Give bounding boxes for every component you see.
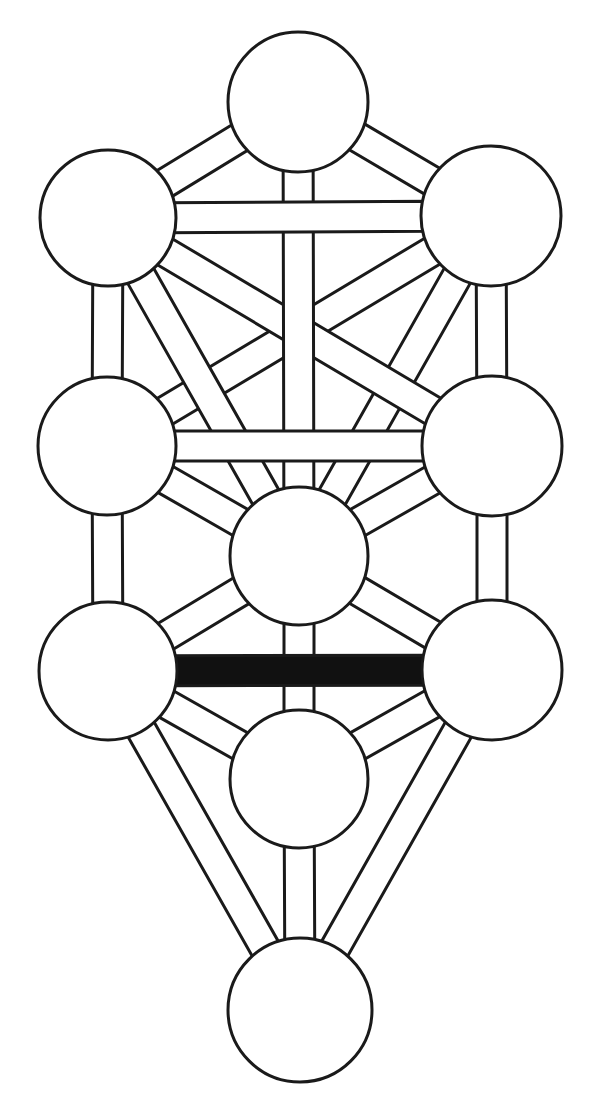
tree-path[interactable] bbox=[166, 431, 432, 461]
highlighted-path[interactable] bbox=[167, 655, 432, 686]
sephirah-kether[interactable]: Kether bbox=[228, 32, 368, 172]
tree-path[interactable] bbox=[166, 201, 431, 232]
sephirah-netzach[interactable]: Netzach bbox=[422, 600, 562, 740]
sephirah-tiphareth[interactable]: Tiphareth bbox=[230, 487, 368, 625]
sephirah-hod[interactable]: Hod bbox=[39, 602, 177, 740]
tree-path[interactable] bbox=[92, 276, 122, 387]
tree-path[interactable] bbox=[477, 506, 507, 610]
sephirah-chokmah[interactable]: Chokmah bbox=[421, 146, 561, 286]
sephirah-binah[interactable]: Binah bbox=[40, 150, 176, 286]
tree-path[interactable] bbox=[476, 276, 506, 386]
tree-path[interactable] bbox=[284, 838, 314, 948]
tree-of-life-diagram: KetherChokmahBinahChesedGeburahTiphareth… bbox=[0, 0, 599, 1108]
sephirah-yesod[interactable]: Yesod bbox=[230, 710, 368, 848]
tree-of-life-canvas: KetherChokmahBinahChesedGeburahTiphareth… bbox=[0, 0, 599, 1108]
sephirah-chesed[interactable]: Chesed bbox=[422, 376, 562, 516]
sephirah-geburah[interactable]: Geburah bbox=[38, 377, 176, 515]
tree-path[interactable] bbox=[92, 505, 122, 612]
sephirah-malkuth[interactable]: Malkuth bbox=[228, 938, 372, 1082]
